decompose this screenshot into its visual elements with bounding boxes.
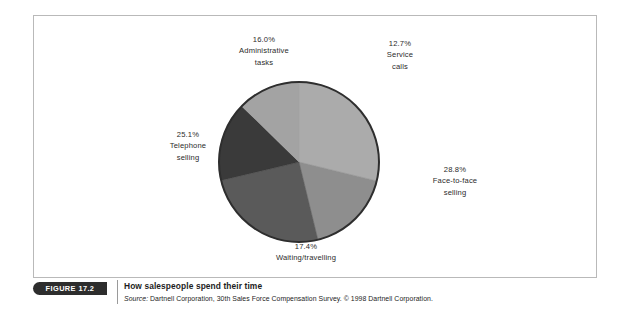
- slice-name-service-calls-line1: Service: [352, 49, 448, 60]
- slice-name-waiting-travelling-line1: Waiting/travelling: [244, 252, 368, 263]
- slice-percent-service-calls: 12.7%: [352, 38, 448, 49]
- slice-name-telephone-selling-line2: selling: [132, 152, 244, 163]
- slice-percent-telephone-selling: 25.1%: [132, 129, 244, 140]
- slice-percent-administrative-tasks: 16.0%: [209, 34, 319, 45]
- slice-name-telephone-selling-line1: Telephone: [132, 140, 244, 151]
- slice-label-service-calls: 12.7% Service calls: [352, 38, 448, 72]
- figure-caption: FIGURE 17.2 How salespeople spend their …: [33, 282, 597, 309]
- figure-number-badge: FIGURE 17.2: [33, 282, 107, 295]
- caption-body: How salespeople spend their time Source:…: [117, 280, 587, 304]
- slice-label-telephone-selling: 25.1% Telephone selling: [132, 129, 244, 163]
- figure-title: How salespeople spend their time: [124, 280, 587, 292]
- slice-percent-waiting-travelling: 17.4%: [244, 241, 368, 252]
- slice-name-face-to-face-selling-line2: selling: [397, 187, 513, 198]
- slice-name-administrative-tasks-line1: Administrative: [209, 45, 319, 56]
- slice-name-service-calls-line2: calls: [352, 61, 448, 72]
- figure-frame: 16.0% Administrative tasks 12.7% Service…: [33, 15, 597, 278]
- slice-percent-face-to-face-selling: 28.8%: [397, 164, 513, 175]
- slice-label-administrative-tasks: 16.0% Administrative tasks: [209, 34, 319, 68]
- source-text: Dartnell Corporation, 30th Sales Force C…: [148, 295, 433, 302]
- source-prefix: Source:: [124, 295, 148, 302]
- slice-name-face-to-face-selling-line1: Face-to-face: [397, 175, 513, 186]
- pie-chart-area: 16.0% Administrative tasks 12.7% Service…: [34, 16, 598, 279]
- slice-name-administrative-tasks-line2: tasks: [209, 57, 319, 68]
- figure-source: Source: Dartnell Corporation, 30th Sales…: [124, 293, 587, 304]
- slice-label-face-to-face-selling: 28.8% Face-to-face selling: [397, 164, 513, 198]
- slice-label-waiting-travelling: 17.4% Waiting/travelling: [244, 241, 368, 264]
